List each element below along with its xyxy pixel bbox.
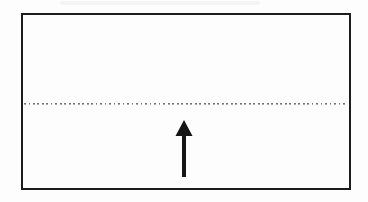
dotted-horizontal-line xyxy=(24,103,348,105)
up-arrow-icon xyxy=(174,120,194,177)
rectangle-frame xyxy=(21,13,351,190)
arrow-stem xyxy=(182,133,186,177)
scan-artifact xyxy=(60,1,260,5)
diagram-canvas xyxy=(0,0,368,202)
